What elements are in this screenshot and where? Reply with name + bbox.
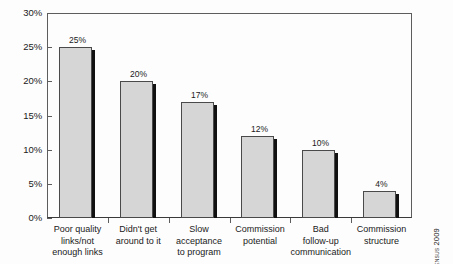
category-label-line: Commission xyxy=(346,224,417,236)
bar-body xyxy=(181,102,214,218)
bar xyxy=(302,150,339,218)
category-label-line: structure xyxy=(346,236,417,248)
category-label-line: communication xyxy=(285,247,356,259)
bar-body xyxy=(241,136,274,218)
category-label-line: to program xyxy=(164,247,235,259)
bar xyxy=(120,81,157,218)
bar xyxy=(363,191,400,218)
bar xyxy=(241,136,278,218)
credit-attribution: Courtesy of Econsultancy's U.S. Affiliat… xyxy=(421,0,435,230)
bar-value-label: 20% xyxy=(106,69,171,79)
category-label-line: enough links xyxy=(42,247,113,259)
bar-body xyxy=(302,150,335,218)
credit-text: Courtesy of Econsultancy's U.S. Affiliat… xyxy=(432,228,441,264)
bar xyxy=(181,102,218,218)
bar-body xyxy=(363,191,396,218)
bar-value-label: 4% xyxy=(349,179,414,189)
bar-value-label: 25% xyxy=(45,35,110,45)
bar-body xyxy=(59,47,92,218)
x-axis-category-label: Commissionstructure xyxy=(346,224,417,247)
bar-value-label: 10% xyxy=(288,138,353,148)
bar-body xyxy=(120,81,153,218)
bar-value-label: 12% xyxy=(227,124,292,134)
bar-value-label: 17% xyxy=(167,90,232,100)
bar xyxy=(59,47,96,218)
bar-chart-figure: 0%5%10%15%20%25%30% 25%20%17%12%10%4% Po… xyxy=(0,0,453,264)
